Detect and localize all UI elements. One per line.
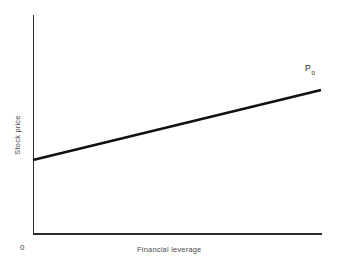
y-axis-title: Stock price <box>14 115 21 154</box>
x-axis-title: Financial leverage <box>137 246 201 253</box>
stock-price-trend-line <box>33 90 321 160</box>
series-label-subscript: 0 <box>311 69 315 76</box>
origin-tick-label: 0 <box>20 244 25 252</box>
chart-figure: Stock price Financial leverage 0 P0 <box>0 0 338 268</box>
series-endpoint-label: P0 <box>305 64 315 75</box>
plot-canvas <box>0 0 338 268</box>
